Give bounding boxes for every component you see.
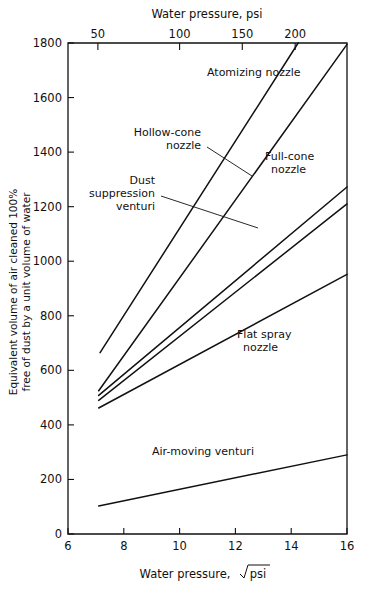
top-tick-label: 50 xyxy=(91,27,106,41)
series-label-hollow-cone-nozzle-line2: nozzle xyxy=(166,139,201,152)
series-label-dust-suppression-venturi-line1: Dust xyxy=(130,174,156,187)
leader-line-dust-suppression xyxy=(161,196,258,228)
top-tick-label: 200 xyxy=(284,27,306,41)
series-label-air-moving-venturi: Air-moving venturi xyxy=(152,445,254,458)
x-axis-title: Water pressure, xyxy=(140,567,231,581)
top-axis-tick-labels: 50100150200 xyxy=(91,27,307,41)
x-tick-label: 16 xyxy=(340,539,355,553)
plot-frame xyxy=(68,43,347,534)
y-axis-ticks xyxy=(68,43,74,534)
series-annotations: Atomizing nozzle Hollow-cone nozzle Full… xyxy=(89,66,314,458)
y-tick-label: 0 xyxy=(55,527,62,541)
series-label-flat-spray-nozzle-line2: nozzle xyxy=(243,341,278,354)
x-axis-title-radicand: psi xyxy=(250,567,267,581)
curve-air-moving-venturi xyxy=(99,455,347,506)
y-tick-label: 1800 xyxy=(33,36,62,50)
y-tick-label: 800 xyxy=(40,309,62,323)
series-label-hollow-cone-nozzle-line1: Hollow-cone xyxy=(134,126,202,139)
y-tick-label: 1000 xyxy=(33,254,62,268)
series-label-full-cone-nozzle-line1: Full-cone xyxy=(265,150,315,163)
y-tick-label: 1400 xyxy=(33,145,62,159)
y-axis-title-line1: Equivalent volume of air cleaned 100% xyxy=(7,189,19,395)
x-tick-label: 8 xyxy=(120,539,127,553)
data-curves xyxy=(99,43,347,506)
x-tick-label: 6 xyxy=(64,539,71,553)
chart-canvas: 020040060080010001200140016001800 681012… xyxy=(0,0,377,594)
curve-flat-spray-nozzle xyxy=(99,274,347,408)
top-axis-title: Water pressure, psi xyxy=(151,7,262,21)
x-axis-ticks xyxy=(68,528,347,534)
y-tick-label: 400 xyxy=(40,418,62,432)
y-axis-tick-labels: 020040060080010001200140016001800 xyxy=(33,36,62,541)
top-axis-ticks xyxy=(98,43,295,50)
y-tick-label: 1600 xyxy=(33,91,62,105)
y-tick-label: 1200 xyxy=(33,200,62,214)
x-tick-label: 12 xyxy=(228,539,243,553)
top-tick-label: 150 xyxy=(231,27,253,41)
y-axis-title-line2: free of dust by a unit volume of water xyxy=(20,192,32,392)
series-label-flat-spray-nozzle-line1: Flat spray xyxy=(237,328,292,341)
curve-dust-suppression-venturi xyxy=(99,204,347,400)
series-label-dust-suppression-venturi-line2: suppression xyxy=(89,187,155,200)
y-tick-label: 600 xyxy=(40,363,62,377)
x-axis-tick-labels: 6810121416 xyxy=(64,539,354,553)
x-tick-label: 14 xyxy=(284,539,299,553)
y-tick-label: 200 xyxy=(40,472,62,486)
top-tick-label: 100 xyxy=(169,27,191,41)
series-label-dust-suppression-venturi-line3: venturi xyxy=(116,200,155,213)
x-tick-label: 10 xyxy=(172,539,187,553)
chart-figure: 020040060080010001200140016001800 681012… xyxy=(0,0,377,594)
series-label-full-cone-nozzle-line2: nozzle xyxy=(271,163,306,176)
series-label-atomizing-nozzle: Atomizing nozzle xyxy=(207,66,301,79)
